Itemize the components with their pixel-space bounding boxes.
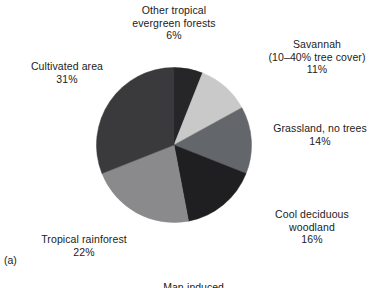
pie-label-value: 16% [248,233,376,246]
pie-label-other-tropical-evergreen-forests: Other tropical evergreen forests 6% [106,4,242,42]
pie-label-line2: evergreen forests [106,17,242,30]
pie-label-line1: Other tropical [106,4,242,17]
pie-label-cultivated-area: Cultivated area 31% [6,60,128,85]
panel-caption: (a) [4,254,17,267]
pie-chart-svg [96,67,252,223]
pie-label-line1: Savannah [250,38,384,51]
pie-slice-group [96,68,251,223]
pie-label-value: 22% [14,246,154,259]
pie-label-line1: Cultivated area [6,60,128,73]
pie-label-line2: woodland [248,221,376,234]
pie-chart [96,67,252,223]
pie-label-value: 11% [250,63,384,76]
pie-label-savannah: Savannah (10–40% tree cover) 11% [250,38,384,76]
pie-label-line1: Tropical rainforest [14,233,154,246]
pie-label-line1: Cool deciduous [248,208,376,221]
pie-label-tropical-rainforest: Tropical rainforest 22% [14,233,154,258]
pie-label-line1: Grassland, no trees [256,122,384,135]
pie-label-line2: (10–40% tree cover) [250,51,384,64]
pie-label-grassland-no-trees: Grassland, no trees 14% [256,122,384,147]
pie-label-value: 6% [106,29,242,42]
pie-chart-figure: Other tropical evergreen forests 6% Sava… [0,0,387,288]
clipped-bottom-caption: Man-induced [0,281,387,288]
pie-label-value: 31% [6,73,128,86]
pie-label-cool-deciduous-woodland: Cool deciduous woodland 16% [248,208,376,246]
pie-label-value: 14% [256,135,384,148]
